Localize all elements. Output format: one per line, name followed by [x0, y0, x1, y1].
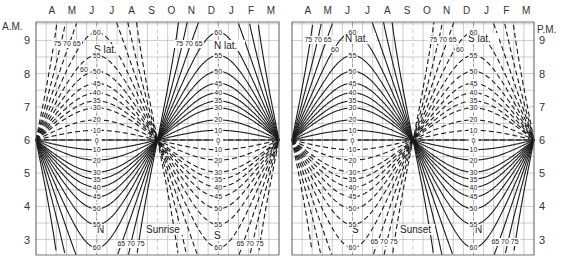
latitude-label: 20 [214, 116, 222, 123]
month-tick-label: J [89, 5, 94, 16]
latitude-label: 35 [93, 176, 101, 183]
sunset-bottom-high-lat-n: 65 70 75 [491, 238, 518, 245]
month-tick-label: A [384, 5, 391, 16]
latitude-label: 55 [470, 221, 478, 228]
hour-tick-label: 4 [24, 200, 30, 212]
hour-tick-label: 6 [539, 134, 545, 146]
latitude-label: 0 [351, 137, 355, 144]
month-tick-label: F [503, 5, 509, 16]
s-mark: S [214, 230, 221, 241]
hour-tick-label: 4 [539, 200, 545, 212]
hour-tick-label: 8 [539, 68, 545, 80]
sunset-top-high-lat-n: 75 70 65 [304, 36, 331, 43]
month-tick-label: S [148, 5, 155, 16]
month-tick-label: M [267, 5, 275, 16]
month-tick-label: D [463, 5, 470, 16]
latitude-label: 60 [470, 29, 478, 36]
latitude-label: 55 [349, 52, 357, 59]
month-tick-label: J [484, 5, 489, 16]
latitude-label: 20 [470, 157, 478, 164]
latitude-label: 50 [349, 68, 357, 75]
month-tick-label: J [229, 5, 234, 16]
latitude-label: 45 [470, 80, 478, 87]
latitude-label: 45 [349, 193, 357, 200]
sunrise-top-high-lat-s: 75 70 65 [53, 40, 80, 47]
latitude-label: 20 [93, 116, 101, 123]
latitude-label: 10 [93, 146, 101, 153]
latitude-label: 10 [349, 127, 357, 134]
latitude-label: 50 [470, 205, 478, 212]
latitude-label: 0 [216, 137, 220, 144]
latitude-label: 10 [214, 146, 222, 153]
latitude-label: 20 [214, 157, 222, 164]
month-tick-label: M [324, 5, 332, 16]
sunset-title: Sunset [400, 224, 431, 235]
latitude-label: 55 [349, 221, 357, 228]
sunset-panel: P.M. AMJJASONDJFM 9876543 75 70 65 60 N … [292, 5, 556, 255]
month-tick-label: N [443, 5, 450, 16]
latitude-label: 45 [214, 80, 222, 87]
month-tick-label: J [365, 5, 370, 16]
latitude-label: 45 [93, 80, 101, 87]
latitude-label: 20 [349, 157, 357, 164]
lat-label-s60: 60 [456, 46, 464, 53]
month-tick-label: J [345, 5, 350, 16]
hour-tick-label: 5 [24, 167, 30, 179]
lat-label-n60: 60 [331, 46, 339, 53]
latitude-label: 55 [93, 221, 101, 228]
latitude-label: 55 [214, 221, 222, 228]
latitude-label: 30 [93, 104, 101, 111]
month-tick-label: J [109, 5, 114, 16]
month-tick-label: M [68, 5, 76, 16]
latitude-label: 30 [93, 169, 101, 176]
latitude-label: 50 [349, 205, 357, 212]
lat-label-s60: 60 [80, 66, 88, 73]
month-tick-label: A [128, 5, 135, 16]
hour-tick-label: 9 [24, 34, 30, 46]
latitude-label: 60 [470, 244, 478, 251]
latitude-label: 20 [93, 157, 101, 164]
latitude-label: 55 [93, 52, 101, 59]
hour-tick-label: 6 [24, 134, 30, 146]
latitude-label: 50 [214, 205, 222, 212]
latitude-label: 35 [470, 176, 478, 183]
latitude-label: 60 [214, 244, 222, 251]
latitude-label: 30 [214, 104, 222, 111]
hour-tick-label: 3 [24, 234, 30, 246]
sunrise-panel: A.M. AMJJASONDJFM 9876543 75 70 65 60 S … [2, 5, 279, 255]
latitude-label: 10 [93, 127, 101, 134]
latitude-label: 30 [470, 104, 478, 111]
latitude-label: 10 [214, 127, 222, 134]
latitude-label: 30 [349, 104, 357, 111]
latitude-label: 50 [214, 68, 222, 75]
latitude-label: 60 [349, 29, 357, 36]
sunrise-hour-axis: 9876543 [24, 34, 30, 245]
hour-tick-label: 7 [24, 101, 30, 113]
sunset-top-high-lat-s: 75 70 65 [429, 36, 456, 43]
month-tick-label: S [404, 5, 411, 16]
month-tick-label: M [522, 5, 530, 16]
latitude-label: 20 [470, 116, 478, 123]
pm-axis-label: P.M. [537, 24, 556, 35]
n-lat-label: N lat. [214, 40, 237, 51]
latitude-label: 50 [470, 68, 478, 75]
hour-tick-label: 8 [24, 68, 30, 80]
latitude-label: 35 [214, 97, 222, 104]
sunrise-title: Sunrise [146, 224, 180, 235]
latitude-label: 40 [93, 89, 101, 96]
latitude-label: 30 [349, 169, 357, 176]
latitude-label: 35 [349, 97, 357, 104]
latitude-label: 20 [349, 116, 357, 123]
latitude-label: 60 [214, 29, 222, 36]
latitude-label: 0 [472, 137, 476, 144]
hour-tick-label: 7 [539, 101, 545, 113]
sunrise-sunset-chart: A.M. AMJJASONDJFM 9876543 75 70 65 60 S … [0, 0, 570, 269]
latitude-label: 40 [93, 184, 101, 191]
latitude-label: 45 [470, 193, 478, 200]
sunrise-top-high-lat-n: 75 70 65 [175, 40, 202, 47]
month-tick-label: O [168, 5, 176, 16]
sunset-month-axis: AMJJASONDJFM [305, 5, 531, 16]
latitude-label: 40 [470, 89, 478, 96]
latitude-label: 40 [470, 184, 478, 191]
latitude-label: 10 [349, 146, 357, 153]
